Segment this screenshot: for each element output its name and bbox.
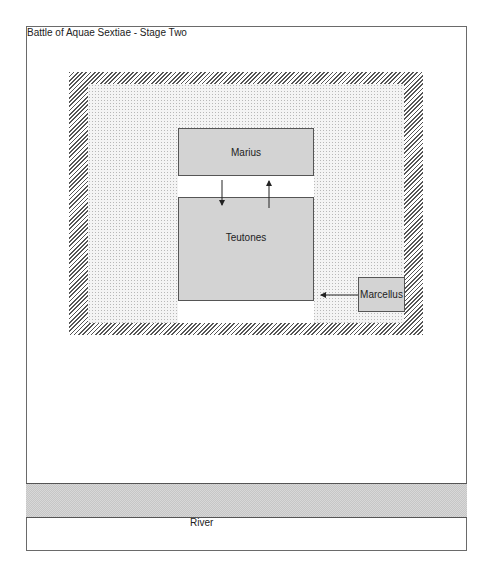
marcellus-unit: Marcellus (358, 277, 405, 312)
marcellus-label: Marcellus (360, 289, 403, 300)
teutones-unit: Teutones (178, 197, 314, 301)
teutones-label: Teutones (226, 232, 267, 243)
diagram-title: Battle of Aquae Sextiae - Stage Two (27, 27, 187, 39)
marius-label: Marius (231, 147, 261, 158)
marius-unit: Marius (178, 128, 314, 176)
river-label: River (190, 517, 213, 528)
river-band (26, 483, 467, 518)
